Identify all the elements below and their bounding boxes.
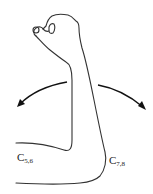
label-c56: C5,6 — [17, 152, 33, 165]
arm-diagram: C5,6 C7,8 — [0, 0, 153, 194]
arrowhead-right-icon — [138, 101, 146, 110]
label-c78: C7,8 — [109, 155, 125, 168]
finger-detail — [49, 24, 55, 34]
extension-arrow — [98, 85, 143, 107]
flexion-arrow — [20, 82, 67, 104]
forearm-inner-edge — [16, 36, 72, 151]
